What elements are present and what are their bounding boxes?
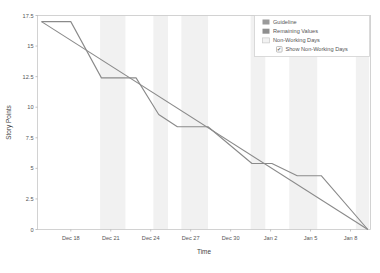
x-tick-label: Jan 8 <box>344 235 358 241</box>
y-tick-label: 7.5 <box>26 135 34 141</box>
x-tick-label: Dec 24 <box>142 235 160 241</box>
x-tick-label: Jan 5 <box>304 235 318 241</box>
x-tick-label: Dec 21 <box>102 235 120 241</box>
y-tick-label: 12.5 <box>23 74 34 80</box>
legend-swatch <box>263 29 270 34</box>
x-axis-title: Time <box>197 248 211 255</box>
y-tick-label: 10 <box>27 104 33 110</box>
chart-canvas: 02.557.51012.51517.5 Dec 18Dec 21Dec 24D… <box>0 0 380 273</box>
legend-item-label: Non-Working Days <box>273 37 320 43</box>
x-tick-label: Jan 2 <box>264 235 278 241</box>
non-working-day-band <box>153 16 168 230</box>
legend-swatch <box>263 20 270 25</box>
y-tick-label: 17.5 <box>23 13 34 19</box>
non-working-day-band <box>181 16 208 230</box>
y-tick-label: 0 <box>30 227 33 233</box>
x-tick-label: Dec 18 <box>62 235 80 241</box>
legend-item-label: Remaining Values <box>273 28 318 34</box>
x-tick-label: Dec 27 <box>182 235 200 241</box>
checkmark-icon: ✔ <box>277 46 281 52</box>
y-tick-label: 15 <box>27 43 33 49</box>
x-tick-label: Dec 30 <box>222 235 240 241</box>
show-non-working-days-label[interactable]: Show Non-Working Days <box>286 46 349 52</box>
non-working-day-band <box>100 16 125 230</box>
legend-item-label: Guideline <box>273 19 297 25</box>
burndown-chart: 02.557.51012.51517.5 Dec 18Dec 21Dec 24D… <box>0 0 380 273</box>
y-tick-label: 2.5 <box>26 196 34 202</box>
y-axis-title: Story Points <box>5 105 13 139</box>
y-tick-label: 5 <box>30 165 33 171</box>
chart-legend[interactable]: GuidelineRemaining ValuesNon-Working Day… <box>255 16 370 57</box>
legend-swatch <box>263 38 270 43</box>
